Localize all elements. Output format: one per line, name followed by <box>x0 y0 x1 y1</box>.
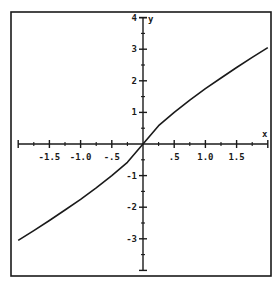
x-axis-label: x <box>262 129 268 139</box>
chart: -1.5-1.0-.5.51.01.54321-1-2-3 x y <box>0 0 273 284</box>
x-tick-label: .5 <box>169 152 180 162</box>
x-tick-label: -1.0 <box>70 152 92 162</box>
x-tick-label: -1.5 <box>39 152 61 162</box>
y-tick-label: -3 <box>126 234 137 244</box>
x-tick-label: -.5 <box>104 152 120 162</box>
x-tick-label: 1.5 <box>228 152 244 162</box>
y-tick-label: 1 <box>132 107 137 117</box>
x-tick-label: 1.0 <box>197 152 213 162</box>
y-tick-label: 3 <box>132 44 137 54</box>
y-tick-label: 2 <box>132 76 137 86</box>
y-tick-label: -2 <box>126 202 137 212</box>
y-axis-label: y <box>148 14 154 24</box>
y-tick-label: -1 <box>126 171 137 181</box>
y-tick-label: 4 <box>132 13 138 23</box>
